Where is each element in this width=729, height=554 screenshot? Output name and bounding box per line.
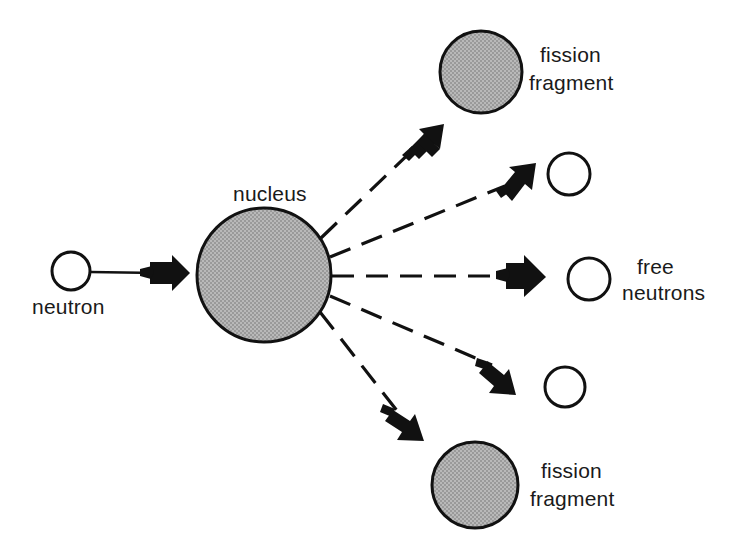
label-free-neutrons-line1: free bbox=[637, 255, 674, 278]
free-neutron-middle-circle bbox=[568, 258, 610, 300]
label-nucleus: nucleus bbox=[233, 182, 307, 205]
label-fission-fragment-top-line2: fragment bbox=[529, 71, 613, 94]
emission-path-fragment-top bbox=[321, 145, 418, 238]
nucleus-circle bbox=[197, 208, 331, 342]
arrow-icon-neutron-middle bbox=[496, 255, 546, 297]
arrow-icon-fragment-top bbox=[402, 124, 444, 161]
fission-diagram: neutron nucleus fission fragment fission… bbox=[0, 0, 729, 554]
label-neutron: neutron bbox=[32, 295, 105, 318]
incoming-neutron-arrow-icon bbox=[140, 255, 190, 291]
emission-path-fragment-bottom bbox=[320, 312, 398, 412]
free-neutron-lower-circle bbox=[545, 367, 585, 407]
arrow-icon-fragment-bottom bbox=[380, 404, 424, 441]
fission-fragment-bottom-circle bbox=[432, 442, 518, 528]
arrow-icon-neutron-upper bbox=[496, 163, 536, 201]
label-fission-fragment-top-line1: fission bbox=[540, 43, 601, 66]
label-fission-fragment-bottom-line1: fission bbox=[541, 459, 602, 482]
label-free-neutrons-line2: neutrons bbox=[622, 281, 705, 304]
fission-fragment-top-circle bbox=[440, 31, 522, 113]
arrow-icon-neutron-lower bbox=[475, 358, 516, 395]
free-neutron-upper-circle bbox=[548, 153, 590, 195]
incoming-neutron-circle bbox=[52, 252, 90, 290]
emission-path-neutron-upper bbox=[330, 186, 505, 257]
label-fission-fragment-bottom-line2: fragment bbox=[530, 487, 614, 510]
fission-diagram-canvas: neutron nucleus fission fragment fission… bbox=[0, 0, 729, 554]
